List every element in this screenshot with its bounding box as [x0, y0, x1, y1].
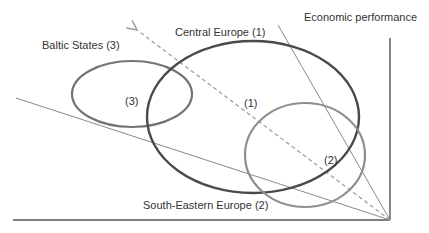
marker-central-europe: (1) — [244, 98, 257, 109]
label-baltic-states: Baltic States (3) — [42, 40, 120, 51]
label-central-europe: Central Europe (1) — [175, 27, 266, 38]
label-south-eastern-europe: South-Eastern Europe (2) — [143, 200, 268, 211]
upper-boundary-line — [278, 25, 390, 220]
south-eastern-europe-ellipse — [245, 103, 365, 207]
axis-label-economic-performance: Economic performance — [304, 12, 417, 23]
baltic-states-ellipse — [72, 61, 192, 127]
marker-baltic-states: (3) — [125, 96, 138, 107]
marker-south-eastern-europe: (2) — [324, 155, 337, 166]
